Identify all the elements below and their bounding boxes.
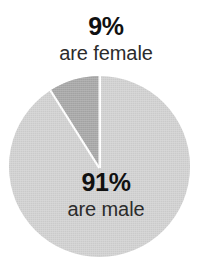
male-callout: 91% are male (0, 168, 212, 221)
male-percent-value: 91% (0, 168, 212, 196)
female-callout: 9% are female (0, 12, 212, 65)
female-caption: are female (0, 41, 212, 65)
pie-chart-figure: 9% are female 91% are male (0, 0, 212, 269)
male-caption: are male (0, 197, 212, 221)
female-percent-value: 9% (0, 12, 212, 40)
